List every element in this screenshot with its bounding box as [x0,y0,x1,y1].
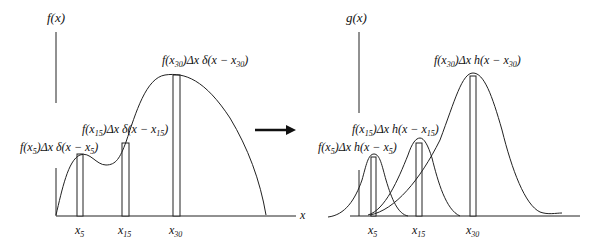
annotation-right-x30: f(x30)Δx h(x − x30) [434,53,521,69]
tick-right-x5: x5 [367,223,377,239]
left-panel: f(x) x f(x5)Δx δ(x − x5) f(x15)Δx δ(x − … [20,10,306,239]
tick-right-x30: x30 [465,223,479,239]
arrow-right-icon [255,125,296,135]
response-bar-x5 [371,157,376,216]
tick-left-x5: x5 [74,223,84,239]
impulse-bar-x15 [122,143,129,216]
left-x-axis-label: x [299,208,306,222]
response-bar-x30 [470,76,476,216]
tick-right-x15: x15 [411,223,425,239]
impulse-bar-x30 [173,75,180,216]
right-y-axis-label: g(x) [346,10,367,25]
gaussian-x30 [370,73,562,215]
impulse-bar-x5 [77,154,83,216]
right-panel: g(x) f(x5)Δx h(x − x5) f(x15)Δx h(x − x1… [318,10,580,239]
response-bar-x15 [416,143,422,216]
tick-left-x15: x15 [117,223,131,239]
convolution-diagram: f(x) x f(x5)Δx δ(x − x5) f(x15)Δx δ(x − … [0,0,592,248]
annotation-left-x30: f(x30)Δx δ(x − x30) [162,53,248,69]
annotation-left-x5: f(x5)Δx δ(x − x5) [20,140,98,156]
gaussian-x5 [328,154,408,217]
annotation-left-x15: f(x15)Δx δ(x − x15) [82,122,168,138]
annotation-right-x15: f(x15)Δx h(x − x15) [352,122,439,138]
annotation-right-x5: f(x5)Δx h(x − x5) [318,140,397,156]
left-y-axis-label: f(x) [47,10,65,25]
tick-left-x30: x30 [168,223,182,239]
